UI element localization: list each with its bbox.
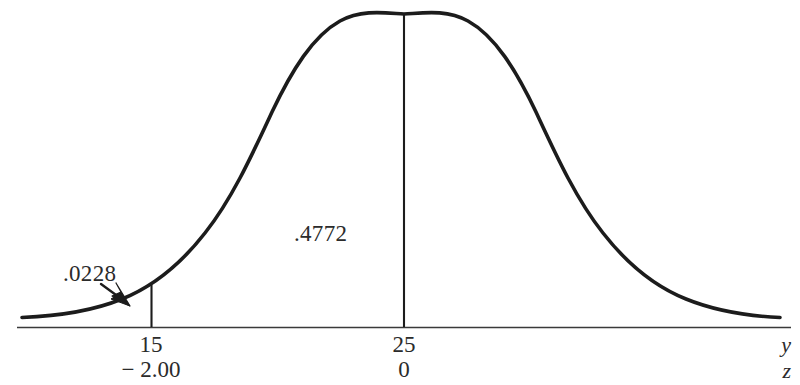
tail-area-label: .0228 bbox=[63, 262, 116, 285]
normal-distribution-figure: .0228 .4772 15 − 2.00 25 0 y z bbox=[0, 0, 800, 385]
bell-curve-graphic bbox=[0, 0, 800, 385]
y-axis-label: y bbox=[781, 334, 791, 356]
y-tick-label-25: 25 bbox=[393, 333, 416, 356]
body-area-label: .4772 bbox=[294, 222, 347, 245]
z-tick-label-0: 0 bbox=[398, 358, 410, 381]
normal-curve-path bbox=[22, 13, 780, 318]
z-tick-label-minus-2: − 2.00 bbox=[122, 358, 181, 381]
y-tick-label-15: 15 bbox=[140, 333, 163, 356]
z-axis-label: z bbox=[782, 360, 791, 382]
